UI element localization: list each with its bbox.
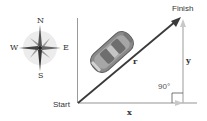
resultant-label: r xyxy=(133,57,137,65)
angle-label: 90° xyxy=(158,83,170,91)
compass-north-label: N xyxy=(37,17,44,25)
compass-west-label: W xyxy=(10,44,18,52)
compass-rose-icon xyxy=(19,25,61,71)
diagram-canvas xyxy=(0,0,207,121)
car-icon xyxy=(87,28,137,76)
finish-label: Finish xyxy=(172,5,193,13)
start-label: Start xyxy=(53,101,70,109)
x-component-arrow xyxy=(78,100,197,106)
compass-south-label: S xyxy=(38,72,43,80)
compass-east-label: E xyxy=(63,44,69,52)
x-component-label: x xyxy=(127,108,132,116)
y-component-label: y xyxy=(186,56,191,64)
